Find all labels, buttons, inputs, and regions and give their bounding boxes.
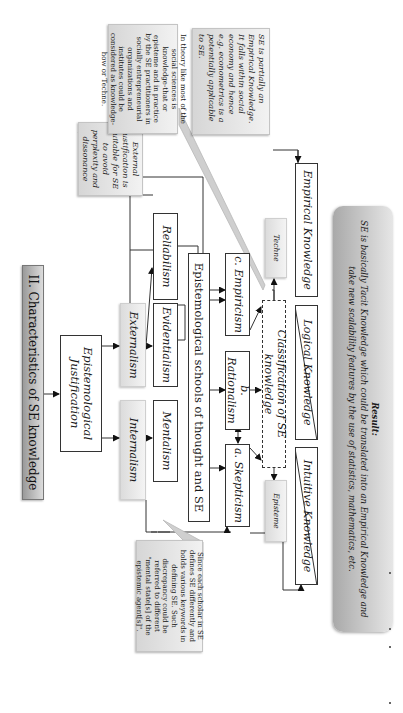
internalism-box: Internalism: [120, 400, 146, 500]
reliabilism-box: Reliabilism: [153, 213, 178, 300]
scan-mark: [389, 702, 391, 704]
scan-mark: [389, 572, 391, 574]
result-panel: Result: SE is basically Tacit Knowledge …: [333, 206, 393, 632]
callout-theory: In theory like most of the social scienc…: [108, 24, 178, 134]
section-title: II. Characteristics of SE knowledge: [22, 265, 44, 500]
empirical-knowledge-box: Empirical Knowledge: [295, 163, 318, 297]
epistemological-justification-box: Epistemological Justification: [60, 335, 102, 452]
callout-empirical: SE is partially an Empirical Knowledge. …: [192, 28, 270, 135]
scan-mark: [389, 646, 391, 648]
intuitive-knowledge-box: Intuitive Knowledge: [295, 447, 318, 585]
rationalism-box: b. Rationalism: [225, 351, 250, 430]
skepticism-box: a. Skepticism: [225, 444, 250, 527]
callout-scholars: Since each scholar in SE defines SE diff…: [136, 540, 203, 652]
logical-knowledge-label: Logical Knowledge: [300, 319, 313, 425]
techne-box: Techne: [265, 218, 287, 278]
classification-box: Classification of SE knowledge: [262, 300, 286, 468]
intuitive-knowledge-label: Intuitive Knowledge: [300, 460, 313, 573]
scan-mark: [389, 628, 391, 630]
evidentialism-box: Evidentialism: [153, 303, 178, 387]
diagram-canvas: II. Characteristics of SE knowledge Epis…: [0, 0, 403, 713]
empiricism-box: c. Empiricism: [225, 253, 250, 336]
result-heading: Result:: [369, 402, 380, 436]
logical-knowledge-box: Logical Knowledge: [295, 305, 318, 440]
mentalism-box: Mentalism: [153, 400, 178, 482]
episteme-box: Episteme: [265, 480, 287, 542]
epistemological-schools-bar: Epistemological schools of thought and S…: [188, 253, 210, 522]
externalism-box: Externalism: [120, 303, 146, 387]
result-text: SE is basically Tacit Knowledge which co…: [346, 220, 369, 618]
